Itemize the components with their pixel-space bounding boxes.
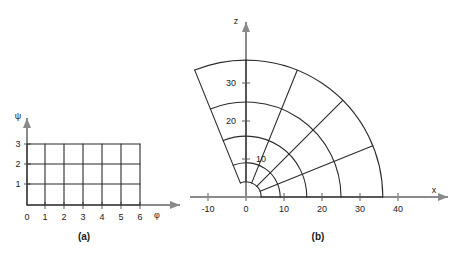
panel-b-axes <box>190 22 448 201</box>
panel-b: -10 0 10 20 30 40 10 20 30 x z (b) <box>190 16 448 242</box>
grid-ray-phi <box>252 70 298 183</box>
panel-a-y-axis-arrowhead <box>23 118 31 128</box>
x-tick-label: 4 <box>99 212 104 222</box>
panel-b-z-axis-arrowhead <box>242 22 250 32</box>
y-tick-label: 2 <box>15 159 20 169</box>
panel-a-x-axis-label: φ <box>154 210 160 220</box>
panel-a-constant-phi-lines <box>27 144 140 205</box>
panel-a-x-tick-labels: 0 1 2 3 4 5 6 <box>24 212 142 222</box>
grid-arc-psi <box>240 182 261 197</box>
panel-b-x-axis-label: x <box>432 185 437 195</box>
x-tick-label: 20 <box>317 204 327 214</box>
grid-arc-psi <box>233 163 280 197</box>
panel-b-constant-psi-arcs <box>195 60 383 197</box>
x-tick-label: 1 <box>42 212 47 222</box>
panel-b-caption: (b) <box>312 231 325 242</box>
x-tick-label: 10 <box>279 204 289 214</box>
panel-a: 0 1 2 3 4 5 6 1 2 3 φ ψ (a) <box>15 111 180 242</box>
x-tick-label: 3 <box>80 212 85 222</box>
figure-root: 0 1 2 3 4 5 6 1 2 3 φ ψ (a) <box>0 0 473 253</box>
x-tick-label: 40 <box>393 204 403 214</box>
z-tick-label: 30 <box>226 78 236 88</box>
panel-b-constant-phi-rays <box>195 60 383 197</box>
panel-a-caption: (a) <box>78 231 90 242</box>
z-tick-label: 20 <box>226 116 236 126</box>
panel-b-x-tick-labels: -10 0 10 20 30 40 <box>201 204 403 214</box>
z-tick-label: 10 <box>256 154 266 164</box>
panel-a-y-axis-label: ψ <box>15 111 21 121</box>
x-tick-label: 0 <box>243 204 248 214</box>
x-tick-label: 0 <box>24 212 29 222</box>
grid-arc-psi <box>223 136 307 197</box>
x-tick-label: -10 <box>201 204 214 214</box>
grid-ray-phi <box>260 146 373 192</box>
x-tick-label: 30 <box>355 204 365 214</box>
panel-b-z-axis-label: z <box>234 16 239 26</box>
panel-a-y-tick-labels: 1 2 3 <box>15 139 20 189</box>
panel-a-x-axis-arrowhead <box>170 201 180 209</box>
grid-ray-phi <box>257 100 343 186</box>
panel-b-x-axis-arrowhead <box>438 193 448 201</box>
x-tick-label: 2 <box>61 212 66 222</box>
y-tick-label: 3 <box>15 139 20 149</box>
y-tick-label: 1 <box>15 179 20 189</box>
x-tick-label: 5 <box>118 212 123 222</box>
grid-arc-psi <box>195 60 383 197</box>
x-tick-label: 6 <box>137 212 142 222</box>
